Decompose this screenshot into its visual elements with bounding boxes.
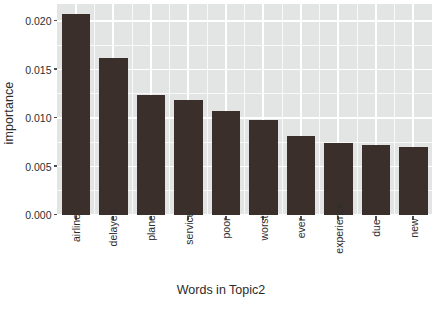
bar [212, 111, 241, 215]
bar [62, 14, 91, 215]
bar [99, 58, 128, 215]
plot-panel [57, 4, 432, 216]
x-tick-label-text: poor [220, 217, 232, 238]
y-axis-title-text: importance [2, 81, 16, 144]
x-tick-label-text: worst [257, 215, 269, 240]
y-tick: 0.005 [25, 161, 58, 173]
x-tick-label-text: delayed [107, 210, 119, 247]
x-tick-label-text: due [370, 219, 382, 237]
bar [287, 136, 316, 215]
y-axis: 0.0000.0050.0100.0150.020 [18, 10, 58, 216]
x-tick-label-text: ever [295, 218, 307, 238]
x-tick-label-text: plane [145, 215, 157, 241]
x-tick-label-text: experience [332, 202, 344, 253]
bar [249, 120, 278, 215]
y-tick-label: 0.010 [25, 112, 51, 124]
x-axis-title: Words in Topic2 [0, 283, 442, 297]
bar [399, 147, 428, 215]
y-tick: 0.020 [25, 15, 58, 27]
x-tick-label-text: service [182, 211, 194, 244]
y-tick: 0.015 [25, 64, 58, 76]
y-tick: 0.010 [25, 112, 58, 124]
y-tick: 0.000 [25, 209, 58, 221]
y-tick-label: 0.015 [25, 64, 51, 76]
x-tick-label: new [384, 222, 442, 282]
x-tick-label-text: new [407, 218, 419, 237]
x-tick-label-text: airline [70, 214, 82, 242]
y-tick-label: 0.020 [25, 15, 51, 27]
y-tick-label: 0.000 [25, 209, 51, 221]
y-axis-title: importance [0, 0, 18, 225]
bar-chart-figure: importance 0.0000.0050.0100.0150.020 air… [0, 0, 442, 311]
bar-series [57, 4, 432, 216]
x-axis: airlinedelayedplaneservicepoorworstevere… [57, 216, 432, 282]
bar [137, 95, 166, 215]
y-tick-label: 0.005 [25, 161, 51, 173]
bar [362, 145, 391, 215]
bar [174, 100, 203, 215]
